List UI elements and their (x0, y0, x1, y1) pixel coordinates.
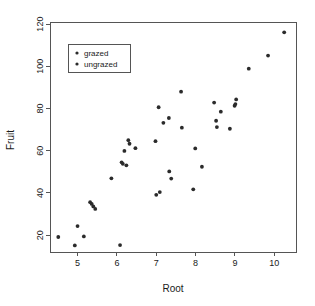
data-point (154, 193, 158, 197)
data-point (228, 127, 232, 131)
legend-label-grazed: grazed (84, 49, 108, 58)
legend-label-ungrazed: ungrazed (84, 60, 117, 69)
legend-marker-grazed (75, 51, 78, 54)
data-point (56, 235, 60, 239)
data-point (167, 116, 171, 120)
x-tick-label: 10 (269, 258, 279, 268)
y-tick-label: 100 (35, 59, 45, 74)
data-point (215, 125, 219, 129)
legend-marker-ungrazed (75, 62, 78, 65)
data-point (169, 177, 173, 181)
data-point (118, 243, 122, 247)
data-point (167, 169, 171, 173)
y-tick-label: 120 (35, 17, 45, 32)
data-point (73, 244, 77, 248)
data-point (122, 149, 126, 153)
data-point (161, 121, 165, 125)
x-tick-label: 5 (75, 258, 80, 268)
y-tick-label: 80 (35, 104, 45, 114)
y-axis-title: Fruit (5, 130, 16, 150)
data-point (282, 30, 286, 34)
data-point (193, 146, 197, 150)
plot-canvas: 5678910 20406080100120 grazedungrazed Ro… (0, 0, 315, 306)
data-point (128, 142, 132, 146)
y-tick-label: 60 (35, 146, 45, 156)
data-point (191, 187, 195, 191)
data-point (126, 138, 130, 142)
x-axis-ticks: 5678910 (75, 252, 279, 268)
data-point (121, 162, 125, 166)
series-grazed (56, 105, 173, 247)
data-point (76, 224, 80, 228)
data-point (234, 98, 238, 102)
data-point (200, 165, 204, 169)
x-tick-label: 6 (114, 258, 119, 268)
data-point (134, 146, 138, 150)
data-point (233, 102, 237, 106)
data-point (212, 101, 216, 105)
data-point (247, 67, 251, 71)
data-point (110, 176, 114, 180)
x-tick-label: 7 (154, 258, 159, 268)
scatter-plot-figure: 5678910 20406080100120 grazedungrazed Ro… (0, 0, 315, 306)
data-point (157, 105, 161, 109)
data-point (214, 119, 218, 123)
y-tick-label: 40 (35, 188, 45, 198)
data-point (158, 190, 162, 194)
data-point (82, 234, 86, 238)
series-ungrazed (179, 30, 286, 191)
data-point (180, 126, 184, 130)
data-point (154, 139, 158, 143)
data-point (93, 207, 97, 211)
x-axis-title: Root (162, 283, 183, 294)
data-point (266, 54, 270, 58)
y-tick-label: 20 (35, 230, 45, 240)
data-point (219, 110, 223, 114)
data-point (124, 163, 128, 167)
x-tick-label: 8 (193, 258, 198, 268)
chart-legend: grazedungrazed (68, 44, 130, 72)
x-tick-label: 9 (232, 258, 237, 268)
y-axis-ticks: 20406080100120 (35, 17, 50, 241)
data-point (179, 90, 183, 94)
